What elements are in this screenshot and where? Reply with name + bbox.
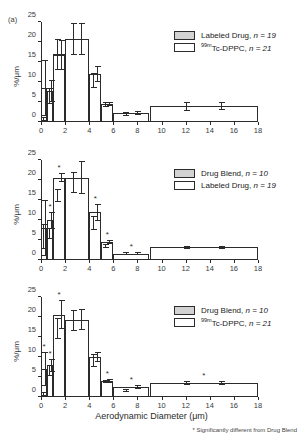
error-bar — [73, 310, 74, 331]
histogram-bar — [150, 106, 259, 122]
x-axis-tick-label: 0 — [39, 264, 43, 273]
error-bar-cap — [42, 200, 48, 201]
histogram-bar — [53, 178, 65, 260]
x-axis-tick — [186, 122, 187, 125]
histogram-bar — [89, 357, 101, 397]
legend-panel-1: Labeled Drug, n = 1999mTc-DPPC, n = 21 — [174, 30, 276, 54]
histogram-bar — [113, 254, 149, 260]
y-axis-tick-label: 10 — [28, 69, 36, 78]
legend-label: Drug Blend, n = 10 — [201, 169, 268, 178]
legend-row: Drug Blend, n = 10 — [174, 168, 276, 179]
legend-label: 99mTc-DPPC, n = 21 — [201, 42, 272, 53]
significance-asterisk: * — [94, 196, 97, 202]
histogram-bar — [65, 178, 89, 260]
x-axis-tick-label: 0 — [39, 126, 43, 135]
error-bar-cap — [219, 246, 225, 247]
legend-swatch-open — [174, 318, 195, 327]
significance-footnote: * Significantly different from Drug Blen… — [192, 427, 297, 433]
error-bar-cap — [49, 371, 55, 372]
error-bar — [186, 102, 187, 111]
y-axis-tick-label: 20 — [28, 167, 36, 176]
error-bar — [97, 66, 98, 82]
y-axis-tick-label: 10 — [28, 344, 36, 353]
error-bar-cap — [71, 310, 77, 311]
error-bar — [221, 246, 222, 249]
error-bar-cap — [123, 115, 129, 116]
x-axis-tick-label: 8 — [135, 401, 139, 410]
error-bar-cap — [219, 381, 225, 382]
x-axis-tick-label: 18 — [254, 401, 262, 410]
legend-row: Labeled Drug, n = 19 — [174, 180, 276, 191]
panel-label-a: (a) — [8, 15, 17, 24]
error-bar — [45, 352, 46, 386]
error-bar-cap — [184, 381, 190, 382]
x-axis-tick — [41, 122, 42, 125]
error-bar — [97, 204, 98, 222]
y-axis-tick — [38, 41, 41, 42]
x-axis-tick-label: 2 — [63, 264, 67, 273]
error-bar-cap — [123, 391, 129, 392]
error-bar — [61, 300, 62, 329]
error-bar-cap — [55, 189, 61, 190]
error-bar-cap — [59, 69, 65, 70]
histogram-bar — [101, 381, 113, 397]
error-bar — [57, 39, 58, 69]
y-axis-title: %/μm — [12, 204, 21, 225]
x-axis-tick-label: 14 — [206, 401, 214, 410]
legend-n-text: n = 19 — [253, 181, 275, 190]
error-bar-cap — [219, 248, 225, 249]
y-axis-tick-label: 10 — [28, 207, 36, 216]
error-bar-cap — [107, 102, 113, 103]
legend-n-text: n = 10 — [245, 169, 267, 178]
significance-asterisk: * — [48, 204, 51, 210]
error-bar — [49, 228, 50, 239]
error-bar — [73, 23, 74, 55]
legend-n-text: n = 21 — [249, 44, 271, 53]
error-bar — [51, 80, 52, 102]
legend-row: 99mTc-DPPC, n = 21 — [174, 317, 272, 328]
error-bar — [81, 309, 82, 330]
error-bar — [186, 381, 187, 385]
error-bar-cap — [49, 80, 55, 81]
y-axis-tick-label: 25 — [28, 9, 36, 18]
error-bar — [109, 240, 110, 244]
error-bar — [45, 60, 46, 116]
y-axis-tick — [38, 199, 41, 200]
x-axis-tick — [210, 397, 211, 400]
x-axis-tick-label: 4 — [87, 126, 91, 135]
error-bar-cap — [47, 103, 53, 104]
error-bar-cap — [95, 220, 101, 221]
error-bar-cap — [79, 309, 85, 310]
error-bar-cap — [184, 246, 190, 247]
significance-asterisk: * — [58, 165, 61, 171]
significance-asterisk: * — [106, 232, 109, 238]
error-bar — [61, 40, 62, 70]
error-bar-cap — [123, 254, 129, 255]
legend-isotope-prefix: 99m — [201, 42, 212, 48]
significance-asterisk: * — [58, 292, 61, 298]
x-axis-tick — [89, 122, 90, 125]
error-bar-cap — [79, 54, 85, 55]
error-bar — [186, 246, 187, 249]
x-axis-tick — [137, 397, 138, 400]
x-axis-tick — [210, 122, 211, 125]
error-bar — [51, 212, 52, 230]
error-bar-cap — [219, 102, 225, 103]
x-axis-tick-label: 12 — [181, 264, 189, 273]
legend-row: 99mTc-DPPC, n = 21 — [174, 42, 276, 53]
x-axis-title: Aerodynamic Diameter (μm) — [0, 411, 303, 421]
x-axis-tick — [234, 122, 235, 125]
y-axis-tick-label: 5 — [32, 364, 36, 373]
x-axis-tick-label: 14 — [206, 126, 214, 135]
error-bar-cap — [59, 300, 65, 301]
error-bar-cap — [95, 361, 101, 362]
error-bar-cap — [71, 54, 77, 55]
y-axis-tick-label: 25 — [28, 147, 36, 156]
y-axis-tick-label: 15 — [28, 187, 36, 196]
error-bar — [221, 381, 222, 385]
legend-label: Labeled Drug, n = 19 — [201, 181, 276, 190]
error-bar-cap — [55, 318, 61, 319]
x-axis-tick — [89, 260, 90, 263]
histogram-bar — [150, 247, 259, 260]
x-axis-tick — [113, 122, 114, 125]
